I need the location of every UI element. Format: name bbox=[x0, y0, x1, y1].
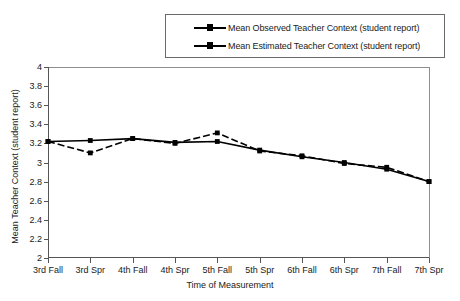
y-axis-tick-mark bbox=[44, 105, 49, 106]
y-axis-tick-label: 2.8 bbox=[16, 178, 42, 187]
legend-label-estimated: Mean Estimated Teacher Context (student … bbox=[228, 41, 420, 51]
y-axis-tick-label: 2.6 bbox=[16, 197, 42, 206]
x-axis-tick-mark bbox=[175, 258, 176, 263]
plot-area bbox=[48, 67, 430, 258]
y-axis-tick-label: 3 bbox=[16, 159, 42, 168]
x-axis-tick-mark bbox=[90, 258, 91, 263]
y-axis-tick-label: 3.2 bbox=[16, 139, 42, 148]
plot-right-border bbox=[429, 67, 430, 258]
y-axis-tick-mark bbox=[44, 220, 49, 221]
y-axis-tick-mark bbox=[44, 239, 49, 240]
y-axis-tick-label: 3.6 bbox=[16, 101, 42, 110]
plot-top-border bbox=[48, 67, 430, 68]
y-axis-tick-mark bbox=[44, 124, 49, 125]
y-axis-tick-mark bbox=[44, 163, 49, 164]
y-axis-tick-mark bbox=[44, 201, 49, 202]
x-axis-tick-mark bbox=[48, 258, 49, 263]
y-axis-tick-label: 4 bbox=[16, 63, 42, 72]
x-axis-label: Time of Measurement bbox=[0, 281, 460, 290]
legend-line-marker-icon bbox=[194, 41, 226, 51]
legend-entry-observed: Mean Observed Teacher Context (student r… bbox=[194, 21, 419, 35]
y-axis-tick-label: 2.2 bbox=[16, 235, 42, 244]
y-axis-tick-mark bbox=[44, 67, 49, 68]
x-axis-tick-label: 7th Spr bbox=[399, 266, 459, 275]
y-axis-tick-label: 2 bbox=[16, 254, 42, 263]
x-axis-tick-mark bbox=[133, 258, 134, 263]
legend-line-marker-icon bbox=[194, 23, 226, 33]
y-axis-tick-label: 3.8 bbox=[16, 82, 42, 91]
x-axis-tick-mark bbox=[344, 258, 345, 263]
x-axis-tick-mark bbox=[429, 258, 430, 263]
x-axis-tick-mark bbox=[387, 258, 388, 263]
y-axis-tick-label: 3.4 bbox=[16, 120, 42, 129]
y-axis-tick-mark bbox=[44, 86, 49, 87]
y-axis-tick-mark bbox=[44, 182, 49, 183]
chart-figure: Mean Observed Teacher Context (student r… bbox=[0, 0, 460, 301]
x-axis-tick-mark bbox=[260, 258, 261, 263]
chart-legend: Mean Observed Teacher Context (student r… bbox=[165, 14, 445, 58]
y-axis-tick-label: 2.4 bbox=[16, 216, 42, 225]
x-axis-tick-mark bbox=[217, 258, 218, 263]
y-axis-tick-mark bbox=[44, 143, 49, 144]
legend-label-observed: Mean Observed Teacher Context (student r… bbox=[228, 23, 419, 33]
x-axis-tick-mark bbox=[302, 258, 303, 263]
legend-entry-estimated: Mean Estimated Teacher Context (student … bbox=[194, 39, 420, 53]
